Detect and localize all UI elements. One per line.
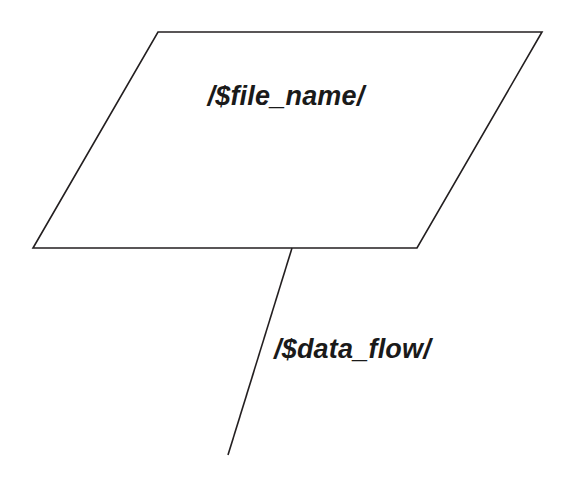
file-store-label: /$file_name/ bbox=[207, 81, 367, 111]
diagram-canvas: /$file_name/ /$data_flow/ bbox=[0, 0, 567, 481]
data-flow-label: /$data_flow/ bbox=[273, 334, 433, 364]
data-flow-diagram: /$file_name/ /$data_flow/ bbox=[0, 0, 567, 481]
file-store-parallelogram[interactable] bbox=[33, 32, 542, 248]
